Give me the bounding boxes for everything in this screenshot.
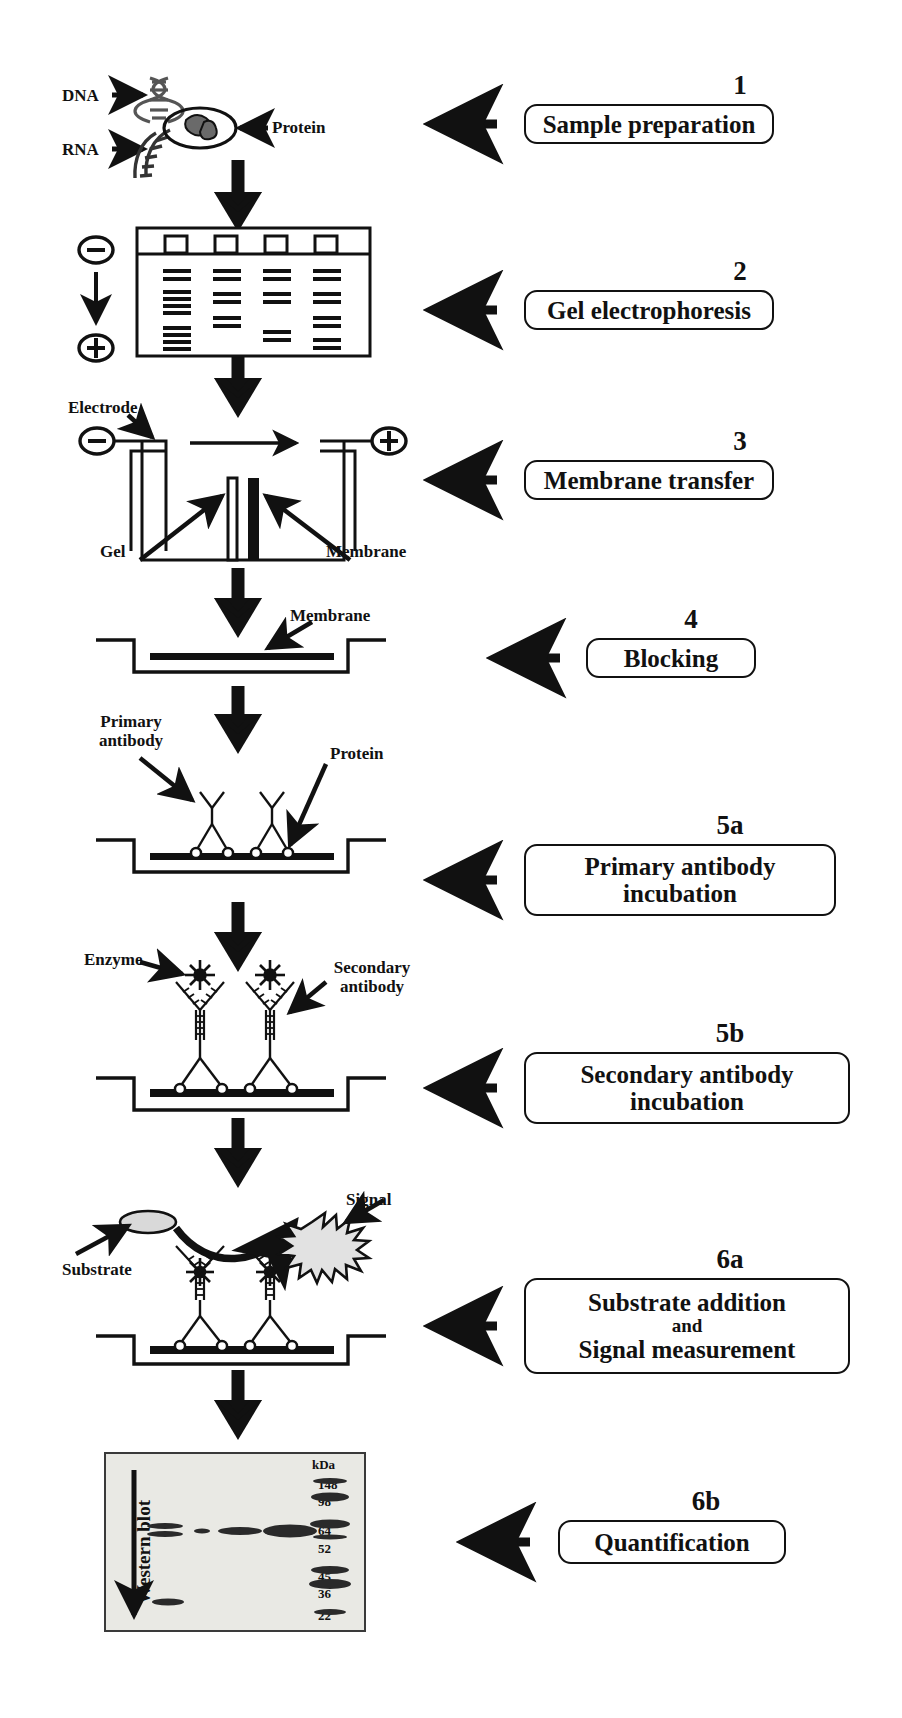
blot-ladder-bands — [309, 1478, 351, 1615]
blot-sample-bands — [147, 1523, 317, 1605]
panel-quantification-blot — [0, 0, 902, 1718]
western-blot-workflow-diagram: 1 Sample preparation 2 Gel electrophores… — [0, 0, 902, 1718]
